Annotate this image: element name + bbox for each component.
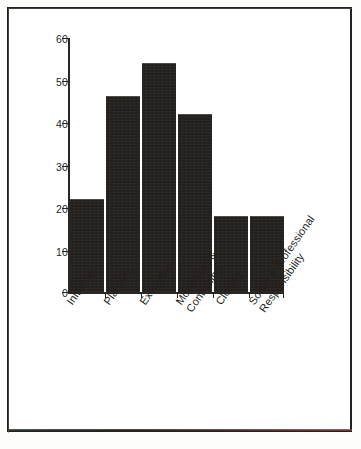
y-tick-label: 0 [40,287,68,299]
y-tick-label: 50 [40,76,68,88]
y-tick-label: 30 [40,161,68,173]
figure-page: 60 50 40 30 20 10 0 [0,0,361,449]
y-tick-label: 60 [40,33,68,45]
y-tick-label: 10 [40,246,68,258]
y-tick-label: 20 [40,203,68,215]
x-tick-mark [283,292,284,298]
bar-chart-plot: 60 50 40 30 20 10 0 [0,0,361,449]
bar-executing [142,63,176,293]
bar-planning [106,96,140,292]
y-tick-label: 40 [40,118,68,130]
